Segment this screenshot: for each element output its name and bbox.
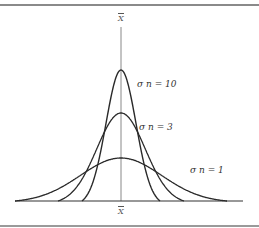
x-bar-label-bottom: X (118, 207, 124, 216)
x-bar-label-top: X (118, 14, 124, 23)
label-sigma-n-10: σ n = 10 (137, 79, 177, 89)
label-sigma-n-3: σ n = 3 (139, 122, 173, 132)
distribution-diagram (0, 0, 259, 228)
label-sigma-n-1: σ n = 1 (190, 165, 224, 175)
